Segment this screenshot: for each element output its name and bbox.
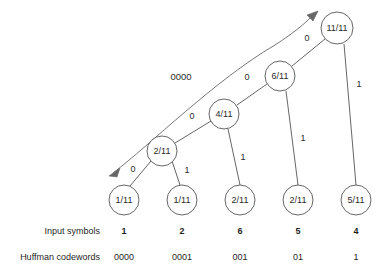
node-leaf-2-label: 1/11 — [174, 195, 191, 205]
traversal-code-label: 0000 — [170, 71, 191, 82]
edge-label-6-right: 1 — [300, 133, 305, 143]
node-root-label: 11/11 — [326, 23, 347, 33]
edge-label-4-right: 1 — [240, 152, 245, 162]
edge-4-to-leaf3 — [228, 129, 240, 185]
node-leaf-3[interactable]: 2/11 — [225, 185, 255, 215]
edge-label-6-left: 0 — [244, 72, 249, 82]
input-symbol-cell: 1 — [121, 226, 126, 236]
tree-nodes: 11/11 6/11 4/11 2/11 1/11 1/11 — [109, 12, 371, 215]
traversal-arc — [113, 13, 315, 173]
edge-4-to-2 — [175, 121, 211, 143]
input-symbol-cell: 4 — [353, 226, 358, 236]
node-leaf-4[interactable]: 2/11 — [283, 185, 313, 215]
node-internal-6-label: 6/11 — [272, 71, 289, 81]
input-symbol-cell: 5 — [295, 226, 300, 236]
edge-label-root-right: 1 — [356, 79, 361, 89]
edge-label-2-right: 1 — [184, 165, 189, 175]
huffman-codeword-cell: 1 — [353, 252, 358, 262]
huffman-codeword-cell: 0000 — [114, 252, 134, 262]
node-internal-6[interactable]: 6/11 — [265, 61, 295, 91]
node-leaf-1-label: 1/11 — [116, 195, 133, 205]
huffman-codeword-cell: 0001 — [172, 252, 192, 262]
node-internal-4-label: 4/11 — [216, 109, 233, 119]
edge-root-to-leaf5 — [344, 44, 356, 185]
huffman-codeword-cell: 001 — [232, 252, 247, 262]
node-internal-2-label: 2/11 — [154, 146, 171, 156]
node-leaf-1[interactable]: 1/11 — [109, 185, 139, 215]
arrowhead-down-left — [109, 168, 120, 177]
node-leaf-4-label: 2/11 — [290, 195, 307, 205]
node-leaf-3-label: 2/11 — [232, 195, 249, 205]
node-leaf-5[interactable]: 5/11 — [341, 185, 371, 215]
input-symbols-row-label: Input symbols — [8, 226, 100, 236]
node-leaf-5-label: 5/11 — [348, 195, 365, 205]
huffman-codeword-cell: 01 — [293, 252, 303, 262]
figure-canvas: 0 1 0 1 0 1 0 1 0000 11/11 6/11 4/11 — [0, 0, 390, 272]
edge-2-to-leaf2 — [172, 161, 180, 185]
node-internal-2[interactable]: 2/11 — [147, 136, 177, 166]
edge-label-2-left: 0 — [130, 164, 135, 174]
node-root[interactable]: 11/11 — [321, 12, 353, 44]
input-symbol-cell: 6 — [237, 226, 242, 236]
node-leaf-2[interactable]: 1/11 — [167, 185, 197, 215]
node-internal-4[interactable]: 4/11 — [209, 99, 239, 129]
edge-label-4-left: 0 — [189, 111, 194, 121]
huffman-codewords-row-label: Huffman codewords — [8, 252, 100, 262]
edge-6-to-leaf4 — [286, 91, 298, 185]
edge-6-to-4 — [237, 84, 267, 105]
input-symbol-cell: 2 — [179, 226, 184, 236]
edge-label-root-left: 0 — [304, 33, 309, 43]
